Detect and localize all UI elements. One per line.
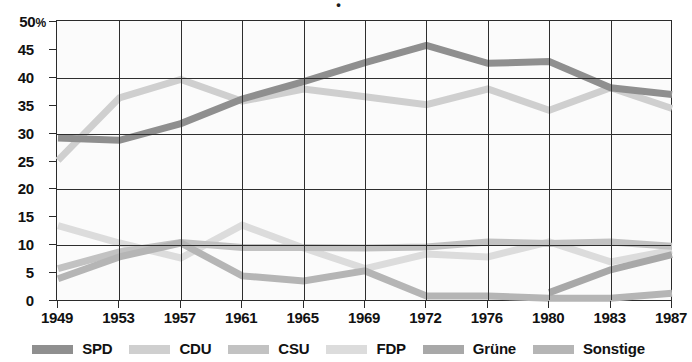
x-axis-tick-label: 1980 bbox=[518, 310, 578, 326]
y-axis-labels: 50%454035302520151050 bbox=[0, 0, 48, 362]
legend-label: Grüne bbox=[473, 341, 516, 357]
x-axis-tick-mark bbox=[487, 301, 488, 308]
x-axis-tick-mark bbox=[303, 301, 304, 308]
vertical-gridline bbox=[304, 21, 305, 300]
vertical-gridline bbox=[426, 21, 427, 300]
legend-swatch bbox=[533, 345, 574, 354]
legend-item-spd[interactable]: SPD bbox=[32, 341, 129, 357]
y-axis-tick-label: 25 bbox=[0, 154, 34, 169]
y-axis-tick-mark bbox=[49, 161, 56, 162]
x-axis-tick-mark bbox=[241, 301, 242, 308]
legend-swatch bbox=[423, 345, 464, 354]
legend-label: SPD bbox=[82, 341, 112, 357]
y-axis-tick-label: 0 bbox=[0, 293, 34, 308]
y-axis-tick-mark bbox=[49, 272, 56, 273]
legend-label: FDP bbox=[376, 341, 405, 357]
x-axis-tick-label: 1965 bbox=[273, 310, 333, 326]
x-axis-tick-label: 1949 bbox=[27, 310, 87, 326]
legend-swatch bbox=[228, 345, 269, 354]
y-axis-tick-mark bbox=[49, 133, 56, 134]
x-axis-tick-mark bbox=[425, 301, 426, 308]
legend-item-sonstige[interactable]: Sonstige bbox=[533, 341, 645, 357]
legend-swatch bbox=[326, 345, 367, 354]
y-axis-tick-mark bbox=[49, 188, 56, 189]
legend-item-fdp[interactable]: FDP bbox=[326, 341, 422, 357]
x-axis-tick-mark bbox=[548, 301, 549, 308]
vertical-gridline bbox=[549, 21, 550, 300]
plot-area bbox=[56, 20, 672, 301]
vertical-gridline bbox=[611, 21, 612, 300]
y-axis-tick-mark bbox=[49, 49, 56, 50]
x-axis-tick-label: 1953 bbox=[88, 310, 148, 326]
y-axis-tick-label: 40 bbox=[0, 70, 34, 85]
x-axis-tick-mark bbox=[610, 301, 611, 308]
horizontal-gridline bbox=[57, 245, 671, 246]
y-axis-tick-mark bbox=[49, 216, 56, 217]
x-axis-tick-label: 1987 bbox=[641, 310, 692, 326]
horizontal-gridline bbox=[57, 134, 671, 135]
y-axis-tick-mark bbox=[49, 244, 56, 245]
x-axis-tick-mark bbox=[180, 301, 181, 308]
y-axis-tick-label: 15 bbox=[0, 209, 34, 224]
x-axis-tick-label: 1969 bbox=[334, 310, 394, 326]
legend-label: CSU bbox=[278, 341, 309, 357]
x-axis-tick-label: 1976 bbox=[457, 310, 517, 326]
x-axis-tick-label: 1983 bbox=[580, 310, 640, 326]
y-axis-tick-mark bbox=[49, 21, 56, 22]
vertical-gridline bbox=[119, 21, 120, 300]
legend-label: CDU bbox=[179, 341, 211, 357]
legend-label: Sonstige bbox=[583, 341, 645, 357]
legend-swatch bbox=[129, 345, 170, 354]
x-axis-tick-mark bbox=[57, 301, 58, 308]
legend-item-csu[interactable]: CSU bbox=[228, 341, 326, 357]
vertical-gridline bbox=[242, 21, 243, 300]
y-axis-tick-mark bbox=[49, 300, 56, 301]
vertical-gridline bbox=[488, 21, 489, 300]
y-axis-tick-label: 30 bbox=[0, 126, 34, 141]
y-axis-tick-mark bbox=[49, 77, 56, 78]
chart-legend: SPDCDUCSUFDPGrüneSonstige bbox=[0, 338, 677, 360]
x-axis-tick-label: 1972 bbox=[395, 310, 455, 326]
x-axis-tick-mark bbox=[118, 301, 119, 308]
legend-item-grne[interactable]: Grüne bbox=[423, 341, 533, 357]
horizontal-gridline bbox=[57, 78, 671, 79]
y-axis-tick-label: 35 bbox=[0, 98, 34, 113]
horizontal-gridline bbox=[57, 189, 671, 190]
title-fragment: • bbox=[0, 0, 677, 12]
legend-swatch bbox=[32, 345, 73, 354]
vertical-gridline bbox=[365, 21, 366, 300]
y-axis-tick-label: 5 bbox=[0, 265, 34, 280]
vertical-gridline bbox=[181, 21, 182, 300]
legend-item-cdu[interactable]: CDU bbox=[129, 341, 228, 357]
y-axis-tick-label: 10 bbox=[0, 237, 34, 252]
x-axis-tick-label: 1961 bbox=[211, 310, 271, 326]
y-axis-tick-label: 20 bbox=[0, 181, 34, 196]
x-axis-tick-mark bbox=[671, 301, 672, 308]
y-axis-tick-label: 50% bbox=[0, 14, 46, 31]
x-axis-tick-mark bbox=[364, 301, 365, 308]
y-axis-tick-mark bbox=[49, 105, 56, 106]
y-axis-tick-label: 45 bbox=[0, 42, 34, 57]
x-axis-tick-label: 1957 bbox=[150, 310, 210, 326]
